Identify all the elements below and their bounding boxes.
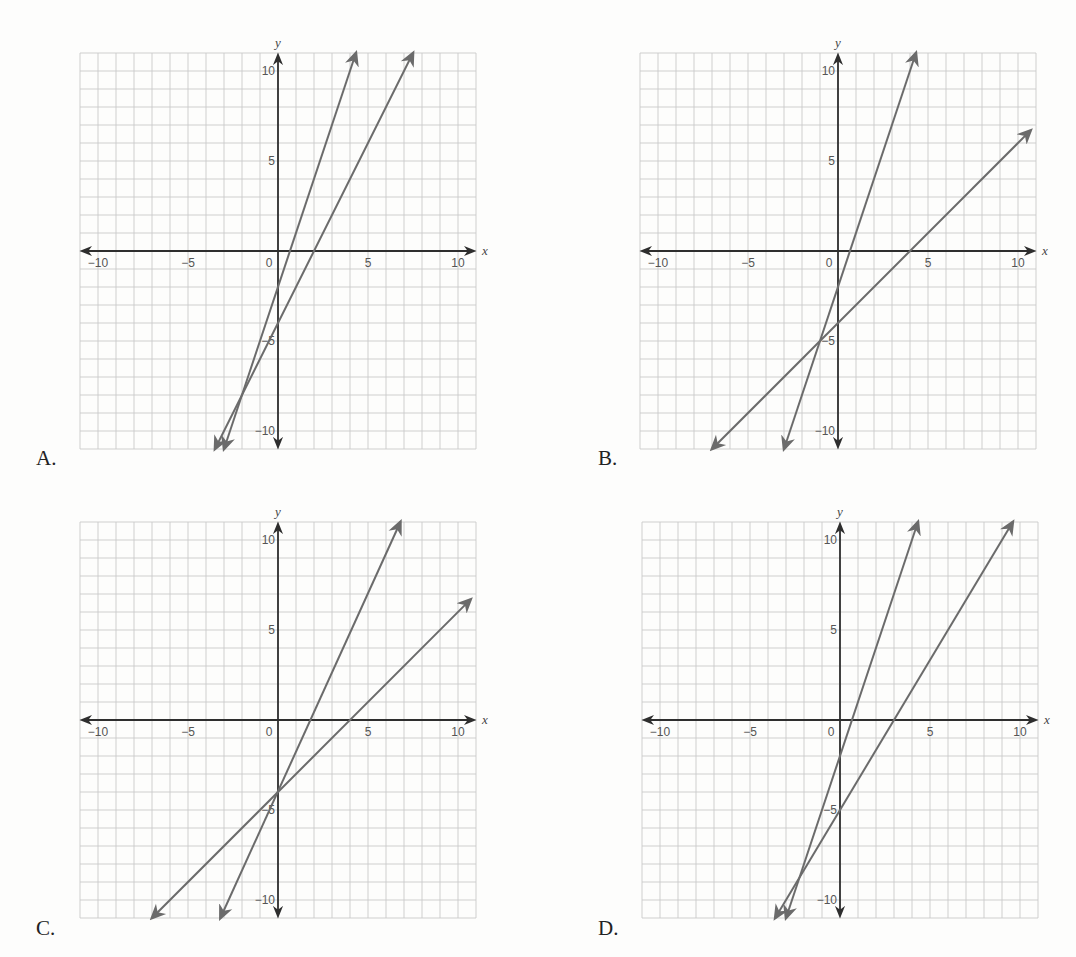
x-tick-label: 0	[266, 725, 273, 739]
x-tick-label: −10	[88, 725, 109, 739]
x-tick-label: −5	[181, 725, 195, 739]
y-tick-label: 10	[262, 64, 276, 78]
x-tick-label: −10	[650, 725, 671, 739]
option-label-d: D.	[598, 916, 618, 941]
option-label-b: B.	[598, 446, 617, 471]
graph-line-2	[712, 130, 1031, 449]
y-axis-label: y	[833, 35, 841, 50]
x-tick-label: 10	[451, 725, 465, 739]
y-tick-label: −10	[255, 424, 276, 438]
option-label-a: A.	[36, 446, 56, 471]
y-tick-label: 5	[268, 154, 275, 168]
x-tick-label: 10	[1013, 725, 1027, 739]
x-axis-label: x	[1041, 243, 1048, 258]
x-tick-label: 0	[828, 725, 835, 739]
y-tick-label: −10	[815, 424, 836, 438]
y-tick-label: −5	[823, 803, 837, 817]
x-tick-label: 5	[365, 256, 372, 270]
x-tick-label: 0	[266, 256, 273, 270]
x-tick-label: 5	[927, 725, 934, 739]
y-axis-label: y	[835, 504, 843, 519]
y-tick-label: 10	[822, 64, 836, 78]
x-tick-label: −5	[743, 725, 757, 739]
coordinate-plane: xy−10−50510105−5−10	[642, 522, 1038, 918]
graph-line-2	[152, 599, 471, 918]
y-axis-label: y	[273, 504, 281, 519]
y-tick-label: 5	[268, 623, 275, 637]
x-tick-label: 5	[925, 256, 932, 270]
y-tick-label: 10	[262, 533, 276, 547]
axes	[82, 524, 474, 916]
y-tick-label: −5	[821, 334, 835, 348]
y-axis-label: y	[273, 35, 281, 50]
x-tick-label: 5	[365, 725, 372, 739]
option-label-c: C.	[36, 916, 55, 941]
x-axis-label: x	[481, 712, 488, 727]
y-tick-label: −10	[255, 893, 276, 907]
axes	[82, 55, 474, 447]
x-tick-label: 0	[826, 256, 833, 270]
x-axis-label: x	[481, 243, 488, 258]
x-axis-label: x	[1043, 712, 1050, 727]
coordinate-plane: xy−10−50510105−5−10	[80, 522, 476, 918]
x-tick-label: −5	[181, 256, 195, 270]
coordinate-plane: xy−10−50510105−5−10	[80, 53, 476, 449]
y-tick-label: 10	[824, 533, 838, 547]
x-tick-label: 10	[1011, 256, 1025, 270]
y-tick-label: 5	[830, 623, 837, 637]
coordinate-plane: xy−10−50510105−5−10	[640, 53, 1036, 449]
y-tick-label: −10	[817, 893, 838, 907]
x-tick-label: −10	[648, 256, 669, 270]
x-tick-label: −10	[88, 256, 109, 270]
axes	[642, 55, 1034, 447]
x-tick-label: −5	[741, 256, 755, 270]
x-tick-label: 10	[451, 256, 465, 270]
y-tick-label: 5	[828, 154, 835, 168]
